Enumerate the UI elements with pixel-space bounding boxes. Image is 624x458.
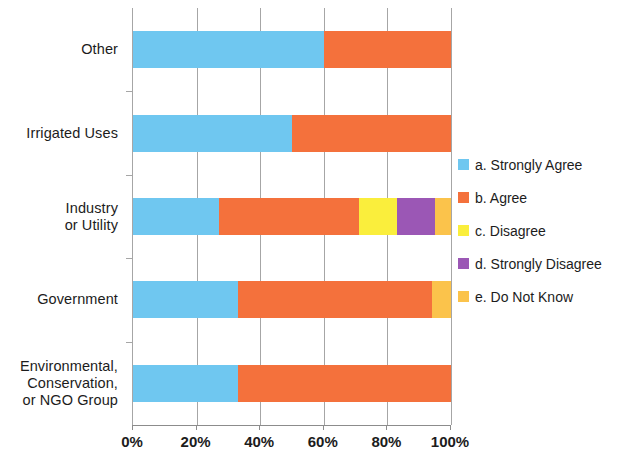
legend-item-3: c. Disagree xyxy=(458,214,624,247)
bar-segment-3-2 xyxy=(219,198,359,235)
bar-segment-4-1 xyxy=(133,281,238,318)
bar-segment-2-2 xyxy=(292,115,451,152)
bar-segment-5-1 xyxy=(133,365,238,402)
x-axis-line xyxy=(132,425,451,426)
legend-item-1: a. Strongly Agree xyxy=(458,148,624,181)
bar-segment-1-1 xyxy=(133,31,324,68)
bar-3 xyxy=(133,198,451,235)
y-axis-label-line: Environmental, xyxy=(0,358,118,375)
y-axis-label-2: Irrigated Uses xyxy=(0,125,118,142)
legend-swatch-icon xyxy=(458,258,469,269)
x-axis-label-40: 40% xyxy=(224,432,294,451)
y-axis-tick-2 xyxy=(126,175,132,176)
bar-5 xyxy=(133,365,451,402)
y-axis-tick-3 xyxy=(126,258,132,259)
bar-segment-1-2 xyxy=(324,31,451,68)
legend-swatch-icon xyxy=(458,192,469,203)
y-axis-label-line: or NGO Group xyxy=(0,392,118,409)
legend-label: d. Strongly Disagree xyxy=(475,256,602,272)
x-axis-label-20: 20% xyxy=(161,432,231,451)
legend-label: e. Do Not Know xyxy=(475,289,573,305)
legend-swatch-icon xyxy=(458,225,469,236)
chart-legend: a. Strongly Agreeb. Agreec. Disagreed. S… xyxy=(458,148,624,313)
y-axis-label-line: Industry xyxy=(0,200,118,217)
bar-segment-3-3 xyxy=(359,198,397,235)
legend-item-4: d. Strongly Disagree xyxy=(458,247,624,280)
bar-segment-4-5 xyxy=(432,281,451,318)
legend-swatch-icon xyxy=(458,291,469,302)
y-axis-tick-4 xyxy=(126,342,132,343)
legend-label: b. Agree xyxy=(475,190,527,206)
y-axis-label-line: or Utility xyxy=(0,217,118,234)
x-axis-tick-100 xyxy=(450,425,451,430)
bar-segment-3-4 xyxy=(397,198,435,235)
bar-1 xyxy=(133,31,451,68)
stacked-bar-chart: OtherIrrigated UsesIndustryor UtilityGov… xyxy=(0,0,624,458)
bar-segment-3-1 xyxy=(133,198,219,235)
y-axis-label-3: Industryor Utility xyxy=(0,200,118,234)
x-axis-tick-20 xyxy=(196,425,197,430)
legend-item-5: e. Do Not Know xyxy=(458,280,624,313)
legend-item-2: b. Agree xyxy=(458,181,624,214)
bar-segment-4-2 xyxy=(238,281,432,318)
x-axis-label-0: 0% xyxy=(97,432,167,451)
legend-swatch-icon xyxy=(458,159,469,170)
y-axis-tick-1 xyxy=(126,91,132,92)
y-axis-label-4: Government xyxy=(0,291,118,308)
x-axis-tick-80 xyxy=(386,425,387,430)
y-axis-label-line: Conservation, xyxy=(0,375,118,392)
x-axis-tick-0 xyxy=(132,425,133,430)
bar-2 xyxy=(133,115,451,152)
y-axis-label-line: Government xyxy=(0,291,118,308)
legend-label: c. Disagree xyxy=(475,223,546,239)
x-axis-label-80: 80% xyxy=(351,432,421,451)
plot-area xyxy=(132,8,451,425)
gridline-100 xyxy=(451,8,452,425)
bar-segment-2-1 xyxy=(133,115,292,152)
bar-segment-5-2 xyxy=(238,365,451,402)
y-axis-label-line: Irrigated Uses xyxy=(0,125,118,142)
x-axis-tick-60 xyxy=(323,425,324,430)
y-axis-label-5: Environmental,Conservation,or NGO Group xyxy=(0,358,118,409)
x-axis-label-60: 60% xyxy=(288,432,358,451)
y-axis-label-1: Other xyxy=(0,41,118,58)
y-axis-label-line: Other xyxy=(0,41,118,58)
x-axis-label-100: 100% xyxy=(415,432,485,451)
legend-label: a. Strongly Agree xyxy=(475,157,582,173)
x-axis-tick-40 xyxy=(259,425,260,430)
bar-4 xyxy=(133,281,451,318)
y-axis-category-labels: OtherIrrigated UsesIndustryor UtilityGov… xyxy=(0,8,124,425)
bar-segment-3-5 xyxy=(435,198,451,235)
